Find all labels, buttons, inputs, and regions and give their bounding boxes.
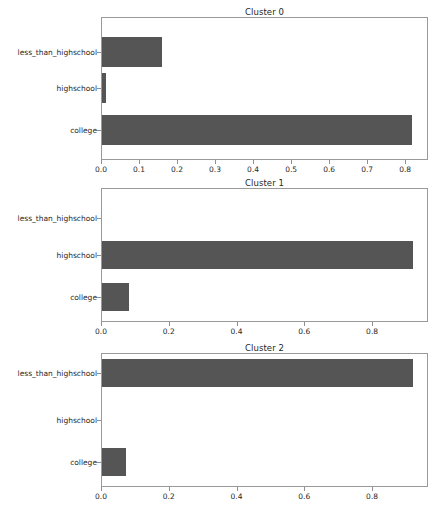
bar-less_than_highschool (102, 37, 162, 67)
matplotlib-figure: Cluster 0less_than_highschoolhighschoolc… (0, 0, 443, 511)
ytick-mark (97, 52, 101, 53)
xtick-label: 0.8 (366, 492, 378, 501)
subplot-title: Cluster 1 (101, 178, 428, 188)
ytick-mark (97, 130, 101, 131)
xtick-mark (139, 160, 140, 164)
ytick-mark (97, 297, 101, 298)
subplot-title: Cluster 0 (101, 7, 428, 17)
xtick-mark (405, 160, 406, 164)
xtick-mark (304, 322, 305, 326)
xtick-label: 0.4 (247, 165, 259, 174)
xtick-mark (367, 160, 368, 164)
xtick-label: 0.8 (399, 165, 411, 174)
bar-college (102, 115, 412, 145)
xtick-mark (101, 322, 102, 326)
xtick-label: 0.6 (298, 327, 310, 336)
xtick-mark (169, 322, 170, 326)
xtick-mark (169, 487, 170, 491)
bar-highschool (102, 241, 413, 269)
xtick-mark (237, 322, 238, 326)
bar-college (102, 283, 129, 311)
ytick-mark (97, 255, 101, 256)
ytick-mark (97, 462, 101, 463)
xtick-mark (253, 160, 254, 164)
xtick-mark (372, 322, 373, 326)
xtick-label: 0.0 (95, 492, 107, 501)
subplot-title: Cluster 2 (101, 343, 428, 353)
ytick-label-highschool: highschool (0, 84, 97, 93)
ytick-mark (97, 373, 101, 374)
bar-highschool (102, 73, 106, 103)
xtick-mark (177, 160, 178, 164)
ytick-mark (97, 218, 101, 219)
xtick-label: 0.7 (361, 165, 373, 174)
xtick-label: 0.6 (323, 165, 335, 174)
xtick-label: 0.8 (366, 327, 378, 336)
ytick-label-college: college (0, 126, 97, 135)
xtick-label: 0.5 (285, 165, 297, 174)
ytick-label-highschool: highschool (0, 416, 97, 425)
xtick-label: 0.2 (163, 492, 175, 501)
xtick-label: 0.6 (298, 492, 310, 501)
xtick-label: 0.2 (171, 165, 183, 174)
xtick-label: 0.4 (231, 492, 243, 501)
xtick-label: 0.3 (209, 165, 221, 174)
ytick-label-less_than_highschool: less_than_highschool (0, 369, 97, 378)
xtick-label: 0.1 (133, 165, 145, 174)
ytick-mark (97, 420, 101, 421)
xtick-mark (372, 487, 373, 491)
ytick-mark (97, 88, 101, 89)
xtick-label: 0.4 (231, 327, 243, 336)
xtick-mark (215, 160, 216, 164)
xtick-mark (329, 160, 330, 164)
bar-less_than_highschool (102, 359, 413, 387)
xtick-label: 0.0 (95, 165, 107, 174)
ytick-label-college: college (0, 293, 97, 302)
xtick-mark (304, 487, 305, 491)
xtick-label: 0.2 (163, 327, 175, 336)
ytick-label-less_than_highschool: less_than_highschool (0, 214, 97, 223)
ytick-label-college: college (0, 458, 97, 467)
xtick-mark (291, 160, 292, 164)
bar-college (102, 448, 126, 476)
xtick-mark (101, 160, 102, 164)
ytick-label-less_than_highschool: less_than_highschool (0, 48, 97, 57)
xtick-mark (237, 487, 238, 491)
xtick-label: 0.0 (95, 327, 107, 336)
xtick-mark (101, 487, 102, 491)
ytick-label-highschool: highschool (0, 251, 97, 260)
